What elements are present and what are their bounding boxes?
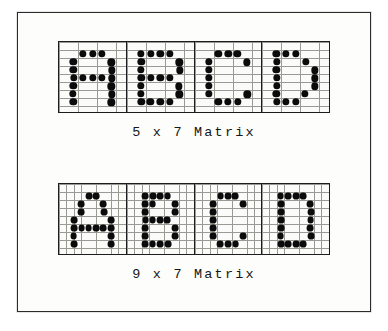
cell-dots <box>127 42 194 112</box>
matrix-dot <box>302 58 309 65</box>
matrix-panel-5x7 <box>58 41 330 113</box>
matrix-dot <box>217 240 224 247</box>
cell-dots <box>262 42 329 112</box>
matrix-dot <box>273 74 280 81</box>
matrix-dot <box>215 50 222 57</box>
matrix-dot <box>142 232 149 239</box>
matrix-dot <box>282 50 289 57</box>
matrix-dot <box>205 82 212 89</box>
matrix-block-9x7: 9 x 7 Matrix <box>58 183 330 291</box>
matrix-dot <box>79 74 86 81</box>
matrix-dot <box>138 98 145 105</box>
matrix-dot <box>166 50 173 57</box>
cell-dots <box>59 42 126 112</box>
matrix-dot <box>89 50 96 57</box>
matrix-dot <box>164 217 171 224</box>
matrix-dot <box>157 74 164 81</box>
matrix-dot <box>301 90 308 97</box>
matrix-dot <box>70 74 77 81</box>
matrix-dot <box>172 233 179 240</box>
matrix-dot <box>205 74 212 81</box>
matrix-dot <box>172 209 179 216</box>
char-cell-nine-by-seven-D <box>262 184 329 254</box>
matrix-dot <box>277 208 284 215</box>
matrix-dot <box>107 232 114 239</box>
matrix-dot <box>214 98 221 105</box>
matrix-dot <box>86 193 93 200</box>
matrix-dot <box>210 224 217 231</box>
matrix-dot <box>108 83 115 90</box>
matrix-dot <box>100 201 107 208</box>
matrix-dot <box>71 216 78 223</box>
matrix-dot <box>311 83 318 90</box>
matrix-dot <box>108 75 115 82</box>
matrix-dot <box>311 67 318 74</box>
matrix-dot <box>225 50 232 57</box>
matrix-dot <box>78 224 85 231</box>
matrix-dot <box>273 98 280 105</box>
matrix-dot <box>278 240 285 247</box>
matrix-dot <box>176 59 183 66</box>
matrix-dot <box>300 241 307 248</box>
matrix-dot <box>311 75 318 82</box>
cell-dots <box>262 184 329 254</box>
matrix-dot <box>142 192 149 199</box>
matrix-dot <box>147 98 154 105</box>
matrix-dot <box>273 66 280 73</box>
matrix-dot <box>307 217 314 224</box>
matrix-dot <box>300 193 307 200</box>
matrix-dot <box>273 58 280 65</box>
matrix-dot <box>210 216 217 223</box>
matrix-dot <box>225 241 232 248</box>
matrix-dot <box>142 216 149 223</box>
matrix-dot <box>149 240 156 247</box>
char-cell-five-by-seven-D <box>262 42 329 112</box>
matrix-dot <box>278 216 285 223</box>
matrix-dot <box>70 232 77 239</box>
matrix-dot <box>292 50 299 57</box>
char-cell-five-by-seven-B <box>127 42 195 112</box>
matrix-dot <box>172 201 179 208</box>
matrix-dot <box>282 98 289 105</box>
matrix-dot <box>273 82 280 89</box>
matrix-dot <box>240 233 247 240</box>
matrix-dot <box>232 241 239 248</box>
caption-9x7: 9 x 7 Matrix <box>58 267 330 282</box>
matrix-dot <box>243 91 250 98</box>
matrix-panel-9x7 <box>58 183 330 255</box>
matrix-dot <box>147 50 154 57</box>
matrix-dot <box>149 200 156 207</box>
matrix-dot <box>85 225 92 232</box>
matrix-dot <box>70 82 77 89</box>
matrix-dot <box>108 67 115 74</box>
matrix-dot <box>239 201 246 208</box>
matrix-dot <box>142 240 149 247</box>
matrix-dot <box>93 193 100 200</box>
matrix-dot <box>164 193 171 200</box>
matrix-dot <box>147 74 154 81</box>
matrix-dot <box>307 209 314 216</box>
matrix-dot <box>234 98 241 105</box>
matrix-dot <box>273 50 280 57</box>
cell-dots <box>127 184 194 254</box>
matrix-dot <box>70 66 77 73</box>
cell-dots <box>195 42 262 112</box>
matrix-dot <box>157 50 164 57</box>
matrix-dot <box>137 50 144 57</box>
matrix-dot <box>205 66 212 73</box>
matrix-dot <box>93 225 100 232</box>
matrix-dot <box>137 82 144 89</box>
char-cell-five-by-seven-C <box>195 42 263 112</box>
matrix-dot <box>137 66 144 73</box>
matrix-dot <box>142 208 149 215</box>
matrix-dot <box>285 192 292 199</box>
matrix-dot <box>232 193 239 200</box>
matrix-dot <box>157 98 164 105</box>
matrix-dot <box>89 74 96 81</box>
matrix-dot <box>307 233 314 240</box>
char-cell-five-by-seven-A <box>59 42 127 112</box>
matrix-dot <box>278 200 285 207</box>
matrix-dot <box>166 98 173 105</box>
matrix-dot <box>70 98 77 105</box>
matrix-dot <box>234 50 241 57</box>
